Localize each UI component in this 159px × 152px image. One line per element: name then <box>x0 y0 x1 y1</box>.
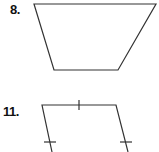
figures <box>0 0 159 152</box>
trapezoid-figure-8 <box>34 4 156 70</box>
quadrilateral-figure-11 <box>42 100 132 152</box>
